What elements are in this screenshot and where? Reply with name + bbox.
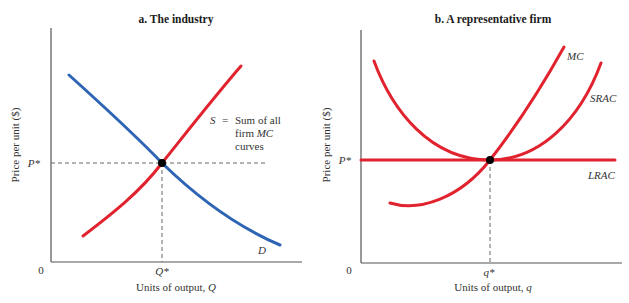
panel-b-equilibrium-point	[486, 156, 494, 164]
figure: a. The industry Price per unit ($) 0 P* …	[0, 0, 629, 303]
panel-a-title: a. The industry	[139, 13, 214, 26]
srac-label: SRAC	[590, 92, 617, 104]
supply-equals: =	[222, 114, 228, 126]
panel-a-industry: a. The industry Price per unit ($) 0 P* …	[9, 13, 302, 293]
supply-label: S	[210, 114, 216, 126]
figure-canvas: a. The industry Price per unit ($) 0 P* …	[0, 0, 629, 303]
supply-note-line-2: firm MC	[235, 127, 274, 139]
lrac-label: LRAC	[587, 169, 616, 181]
panel-a-origin: 0	[38, 264, 44, 276]
panel-b-y-label: Price per unit ($)	[320, 107, 333, 182]
demand-curve	[69, 75, 280, 245]
panel-b-x-label: Units of output, q	[454, 281, 532, 293]
supply-note-line-3: curves	[235, 140, 264, 152]
panel-b-origin: 0	[346, 264, 352, 276]
panel-b-title: b. A representative firm	[435, 13, 552, 26]
panel-a-y-label: Price per unit ($)	[9, 107, 22, 182]
panel-a-p-star-label: P*	[27, 157, 41, 169]
mc-curve	[390, 47, 564, 206]
mc-label: MC	[566, 50, 584, 62]
panel-b-representative-firm: b. A representative firm Price per unit …	[320, 13, 622, 293]
demand-label: D	[257, 244, 266, 256]
panel-b-q-star-label: q*	[484, 266, 496, 278]
panel-a-x-label: Units of output, Q	[136, 281, 216, 293]
panel-b-p-star-label: P*	[338, 154, 352, 166]
supply-note-line-1: Sum of all	[235, 114, 281, 126]
srac-curve	[374, 61, 601, 160]
panel-a-q-star-label: Q*	[155, 265, 169, 277]
panel-a-equilibrium-point	[158, 159, 166, 167]
